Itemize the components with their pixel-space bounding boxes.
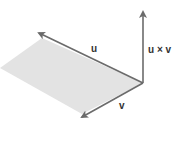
label-cross-product: u × v [148, 45, 171, 55]
label-u: u [91, 44, 97, 54]
cross-product-diagram [0, 0, 181, 153]
label-v: v [119, 101, 125, 111]
